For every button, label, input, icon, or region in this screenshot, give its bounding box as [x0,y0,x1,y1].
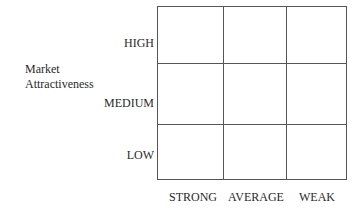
grid-column-divider [286,7,287,179]
grid-row-divider [158,63,346,64]
column-label-strong: STRONG [160,190,226,205]
grid-column-divider [223,7,224,179]
y-axis-label: Market Attractiveness [25,62,94,92]
matrix-grid [157,6,347,180]
y-axis-label-line1: Market [25,62,94,77]
row-label-medium: MEDIUM [104,96,154,111]
grid-row-divider [158,124,346,125]
column-label-weak: WEAK [286,190,348,205]
y-axis-label-line2: Attractiveness [25,77,94,92]
row-label-high: HIGH [124,36,154,51]
column-label-average: AVERAGE [223,190,289,205]
row-label-low: LOW [127,148,154,163]
